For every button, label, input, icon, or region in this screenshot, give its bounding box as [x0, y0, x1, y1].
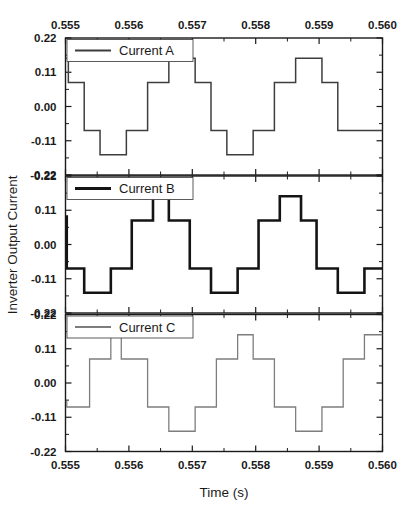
legend-label: Current B [119, 181, 175, 196]
y-tick-label: 0.11 [35, 66, 57, 78]
y-tick-label: 0.22 [34, 32, 56, 44]
x-tick-label-top: 0.560 [368, 19, 397, 31]
legend-current-c[interactable]: Current C [67, 316, 193, 338]
x-axis-title: Time (s) [200, 485, 249, 500]
waveform-current-b [66, 196, 383, 293]
x-tick-label-top: 0.559 [305, 19, 334, 31]
x-tick-label-top: 0.556 [115, 19, 144, 31]
inverter-output-current-chart: 0.220.110.00-0.11-0.22Current A0.220.110… [0, 0, 407, 518]
legend-label: Current C [119, 320, 175, 335]
x-tick-label-bottom: 0.555 [51, 459, 80, 471]
x-tick-label-bottom: 0.559 [305, 459, 334, 471]
legend-current-b[interactable]: Current B [67, 178, 193, 200]
panel-current-c: 0.220.110.00-0.11-0.22Current C [30, 309, 382, 458]
waveform-current-a [66, 58, 383, 155]
panel-current-a: 0.220.110.00-0.11-0.22Current A [30, 32, 382, 181]
x-tick-label-top: 0.555 [51, 19, 80, 31]
waveform-current-c [66, 335, 383, 432]
x-tick-label-top: 0.557 [178, 19, 207, 31]
y-tick-label: 0.22 [34, 309, 56, 321]
legend-label: Current A [119, 43, 174, 58]
x-axis-top: 0.5550.5560.5570.5580.5590.560 [51, 19, 397, 31]
y-tick-label: 0.22 [34, 170, 56, 182]
y-tick-label: -0.11 [31, 273, 57, 285]
y-tick-label: 0.11 [35, 343, 57, 355]
x-tick-label-bottom: 0.560 [368, 459, 397, 471]
y-tick-label: -0.11 [31, 135, 57, 147]
y-tick-label: 0.11 [35, 204, 57, 216]
legend-current-a[interactable]: Current A [67, 40, 193, 62]
x-tick-label-bottom: 0.556 [115, 459, 144, 471]
y-tick-label: -0.11 [31, 411, 57, 423]
x-tick-label-top: 0.558 [241, 19, 270, 31]
chart-figure: 0.220.110.00-0.11-0.22Current A0.220.110… [0, 0, 407, 518]
y-axis-title: Inverter Output Current [5, 175, 20, 314]
y-tick-label: 0.00 [34, 377, 56, 389]
x-tick-label-bottom: 0.558 [241, 459, 270, 471]
panel-current-b: 0.220.110.00-0.11-0.22Current B [30, 170, 382, 319]
x-axis-bottom: 0.5550.5560.5570.5580.5590.560Time (s) [51, 459, 397, 500]
y-tick-label: 0.00 [34, 239, 56, 251]
y-tick-label: 0.00 [34, 101, 56, 113]
y-tick-label: -0.22 [30, 446, 56, 458]
x-tick-label-bottom: 0.557 [178, 459, 207, 471]
